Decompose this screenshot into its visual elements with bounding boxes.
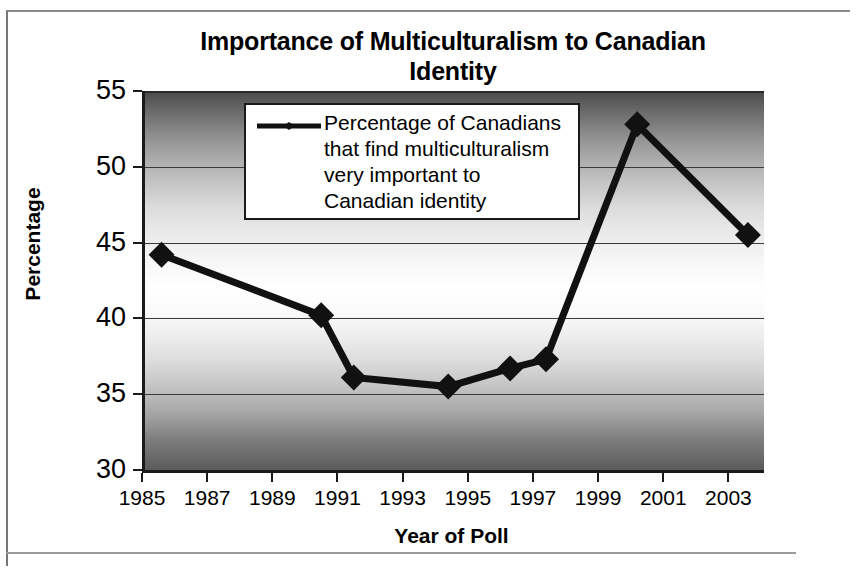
x-tick-label: 1989 bbox=[237, 487, 307, 509]
gridline bbox=[145, 91, 764, 93]
x-tick-label: 1987 bbox=[172, 487, 242, 509]
x-tick-label: 1991 bbox=[302, 487, 372, 509]
y-tick-label: 45 bbox=[66, 229, 126, 256]
y-tick-mark bbox=[133, 469, 142, 471]
legend-series-label: Percentage of Canadians that find multic… bbox=[324, 110, 574, 214]
x-tick-label: 1997 bbox=[498, 487, 568, 509]
y-tick-label: 55 bbox=[66, 77, 126, 104]
y-tick-mark bbox=[133, 393, 142, 395]
x-tick-mark bbox=[271, 473, 273, 482]
legend-label-line-1: Percentage of Canadians bbox=[324, 110, 574, 136]
gridline bbox=[145, 318, 764, 319]
chart-title-line-1: Importance of Multiculturalism to Canadi… bbox=[108, 26, 798, 56]
x-tick-mark bbox=[336, 473, 338, 482]
x-tick-mark bbox=[467, 473, 469, 482]
legend-label-line-4: Canadian identity bbox=[324, 188, 574, 214]
x-tick-mark bbox=[141, 473, 143, 482]
x-tick-mark bbox=[662, 473, 664, 482]
x-tick-label: 1995 bbox=[433, 487, 503, 509]
chart-title: Importance of Multiculturalism to Canadi… bbox=[108, 26, 798, 86]
legend-line-marker-icon bbox=[256, 122, 322, 130]
x-tick-label: 1985 bbox=[107, 487, 177, 509]
x-tick-label: 2001 bbox=[628, 487, 698, 509]
y-tick-mark bbox=[133, 317, 142, 319]
y-tick-label: 40 bbox=[66, 304, 126, 331]
chart-screenshot: Importance of Multiculturalism to Canadi… bbox=[0, 0, 856, 570]
y-tick-mark bbox=[133, 90, 142, 92]
x-tick-mark bbox=[532, 473, 534, 482]
chart-title-line-2: Identity bbox=[108, 56, 798, 86]
x-tick-mark bbox=[402, 473, 404, 482]
legend: Percentage of Canadians that find multic… bbox=[244, 103, 580, 220]
x-tick-label: 1993 bbox=[368, 487, 438, 509]
gridline bbox=[145, 394, 764, 395]
x-tick-mark bbox=[206, 473, 208, 482]
legend-label-line-2: that find multiculturalism bbox=[324, 136, 574, 162]
y-tick-label: 35 bbox=[66, 380, 126, 407]
y-tick-label: 30 bbox=[66, 456, 126, 483]
page-border-bottom bbox=[6, 552, 796, 554]
x-tick-label: 2003 bbox=[693, 487, 763, 509]
y-axis-title: Percentage bbox=[21, 139, 45, 349]
x-axis-title: Year of Poll bbox=[142, 524, 761, 548]
y-tick-mark bbox=[133, 166, 142, 168]
x-tick-label: 1999 bbox=[563, 487, 633, 509]
y-tick-label: 50 bbox=[66, 153, 126, 180]
legend-label-line-3: very important to bbox=[324, 162, 574, 188]
x-tick-mark bbox=[597, 473, 599, 482]
x-tick-mark bbox=[727, 473, 729, 482]
gridline bbox=[145, 243, 764, 244]
y-tick-mark bbox=[133, 242, 142, 244]
